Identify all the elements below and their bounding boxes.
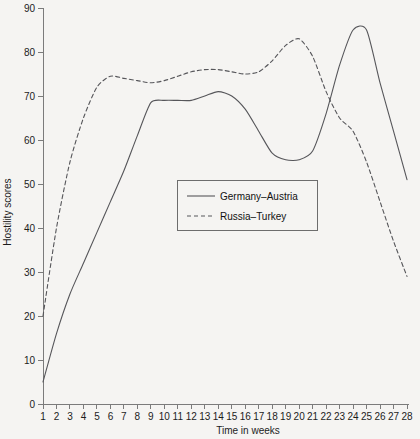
y-axis-tick-label: 30 <box>24 267 36 278</box>
x-axis-tick-label: 8 <box>135 411 141 422</box>
x-axis-tick-label: 23 <box>334 411 346 422</box>
y-axis-tick-label: 10 <box>24 355 36 366</box>
x-axis-tick-label: 27 <box>388 411 400 422</box>
x-axis-tick-label: 16 <box>240 411 252 422</box>
x-axis-tick-label: 12 <box>186 411 198 422</box>
x-axis-tick-label: 13 <box>199 411 211 422</box>
x-axis-tick-label: 1 <box>40 411 46 422</box>
y-axis-tick-label: 0 <box>29 399 35 410</box>
chart-plot-area: 0102030405060708090 12345678910111213141… <box>0 0 420 439</box>
x-axis: 1234567891011121314151617181920212223242… <box>40 404 413 422</box>
x-axis-title: Time in weeks <box>216 425 280 436</box>
x-axis-tick-label: 18 <box>267 411 279 422</box>
y-axis-tick-label: 90 <box>24 3 36 14</box>
x-axis-tick-label: 2 <box>54 411 60 422</box>
x-axis-tick-label: 6 <box>108 411 114 422</box>
x-axis-tick-label: 22 <box>321 411 333 422</box>
y-axis-tick-label: 80 <box>24 47 36 58</box>
y-axis-tick-label: 70 <box>24 91 36 102</box>
x-axis-tick-label: 4 <box>81 411 87 422</box>
hostility-scores-line-chart: 0102030405060708090 12345678910111213141… <box>0 0 420 439</box>
x-axis-tick-label: 5 <box>94 411 100 422</box>
x-axis-tick-label: 20 <box>294 411 306 422</box>
x-axis-tick-label: 9 <box>148 411 154 422</box>
x-axis-tick-label: 7 <box>121 411 127 422</box>
x-axis-tick-label: 25 <box>361 411 373 422</box>
x-axis-tick-label: 17 <box>253 411 265 422</box>
x-axis-tick-label: 14 <box>213 411 225 422</box>
y-axis-tick-label: 40 <box>24 223 36 234</box>
y-axis-title: Hostility scores <box>2 178 13 245</box>
x-axis-tick-label: 26 <box>374 411 386 422</box>
x-axis-tick-label: 24 <box>348 411 360 422</box>
y-axis-tick-label: 60 <box>24 135 36 146</box>
y-axis: 0102030405060708090 <box>24 3 43 410</box>
legend-label-1: Germany–Austria <box>220 191 298 202</box>
x-axis-tick-label: 19 <box>280 411 292 422</box>
chart-legend: Germany–AustriaRussia–Turkey <box>177 180 317 230</box>
x-axis-tick-label: 11 <box>173 411 184 422</box>
x-axis-tick-label: 21 <box>307 411 319 422</box>
y-axis-tick-label: 50 <box>24 179 36 190</box>
x-axis-tick-label: 15 <box>226 411 238 422</box>
y-axis-tick-label: 20 <box>24 311 36 322</box>
x-axis-tick-label: 10 <box>159 411 171 422</box>
x-axis-tick-label: 28 <box>401 411 413 422</box>
legend-label-2: Russia–Turkey <box>220 211 286 222</box>
series-line-russia-turkey <box>43 39 407 316</box>
x-axis-tick-label: 3 <box>67 411 73 422</box>
